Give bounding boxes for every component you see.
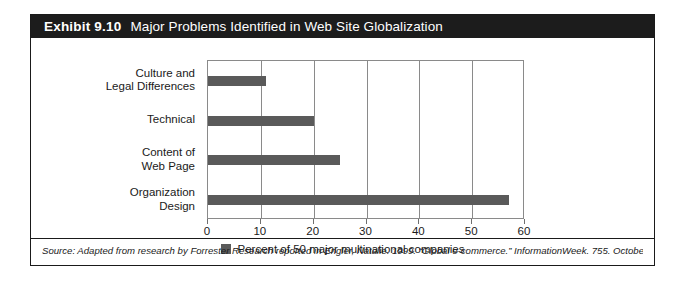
category-label-line: Content of [31,146,195,160]
exhibit-title-bar: Exhibit 9.10 Major Problems Identified i… [31,15,654,38]
exhibit-title: Major Problems Identified in Web Site Gl… [130,19,443,34]
x-axis-tick-label: 60 [518,225,531,237]
exhibit-number: Exhibit 9.10 [44,19,121,34]
bar-group [208,61,523,101]
x-axis-tick-label: 40 [412,225,425,237]
category-label: Culture andLegal Differences [31,66,195,93]
x-axis-tick-label: 0 [204,225,210,237]
bar-group [208,141,523,181]
x-axis-tick-label: 30 [359,225,372,237]
x-axis-tick [471,219,472,224]
bar-group [208,180,523,220]
x-axis-tick-label: 20 [306,225,319,237]
category-label-line: Legal Differences [31,80,195,94]
category-label-line: Web Page [31,159,195,173]
exhibit-card: Exhibit 9.10 Major Problems Identified i… [30,14,655,266]
category-label-line: Culture and [31,66,195,80]
bar[interactable] [208,116,314,126]
x-axis-tick [418,219,419,224]
chart-region: Culture andLegal DifferencesTechnicalCon… [31,38,654,265]
x-axis-tick [524,219,525,224]
x-axis-tick-label: 50 [465,225,478,237]
source-divider [31,238,654,239]
bar[interactable] [208,76,266,86]
x-axis-tick [207,219,208,224]
category-label-line: Organization [31,186,195,200]
category-label: Content ofWeb Page [31,146,195,173]
bar[interactable] [208,195,509,205]
category-label: OrganizationDesign [31,186,195,213]
x-axis-tick-label: 10 [253,225,266,237]
category-label-line: Design [31,199,195,213]
category-label: Technical [31,113,195,127]
x-axis-tick [366,219,367,224]
bars-layer [208,61,523,218]
x-axis-tick [313,219,314,224]
category-axis-labels: Culture andLegal DifferencesTechnicalCon… [31,60,201,219]
source-note: Source: Adapted from research by Forrest… [42,242,643,260]
plot-area [207,60,524,219]
x-axis-tick [260,219,261,224]
bar-group [208,101,523,141]
bar[interactable] [208,155,340,165]
category-label-line: Technical [31,113,195,127]
